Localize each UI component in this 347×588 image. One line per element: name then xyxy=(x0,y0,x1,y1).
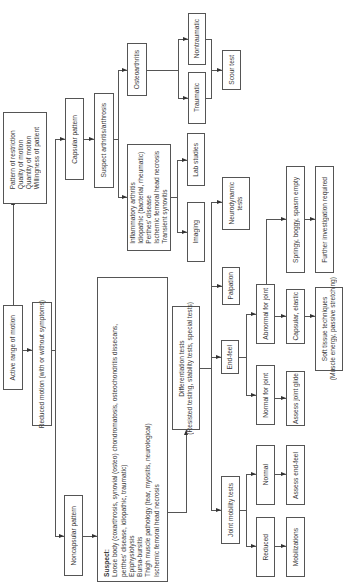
node-capsular-elastic: Capsular, elastic xyxy=(286,289,305,344)
node-label: Suspect arthritis/arthrosis xyxy=(100,103,108,177)
connector xyxy=(200,368,211,369)
node-label: Normal xyxy=(262,464,270,485)
node-label-list: Inflammatory arthritis Idiopathic (bacte… xyxy=(129,151,169,244)
node-label: Assess end-feel xyxy=(292,452,300,499)
node-nontraumatic: Nontraumatic xyxy=(188,13,206,65)
node-label: Noncapsular pattern xyxy=(70,506,78,565)
node-label-list: Differentiation tests (Resisted testing,… xyxy=(178,302,194,435)
node-differentiation-tests: Differentiation tests (Resisted testing,… xyxy=(172,306,200,430)
node-imaging: Imaging xyxy=(187,202,205,262)
node-joint-mobility-tests: Joint mobility tests xyxy=(221,476,240,544)
node-suspect-arthritis: Suspect arthritis/arthrosis xyxy=(94,93,114,188)
node-label: Palpation xyxy=(227,272,235,300)
node-label: Capsular pattern xyxy=(71,115,79,164)
node-reduced-motion: Reduced motion (with or without symptoms… xyxy=(32,302,52,426)
connector xyxy=(147,70,179,71)
node-label-list: Neurodynamic tests xyxy=(228,182,244,225)
node-label: Reduced xyxy=(262,534,270,560)
node-lab-studies: Lab studies xyxy=(187,133,205,186)
node-assess-joint-glide: Assess joint glide xyxy=(286,371,305,426)
connector xyxy=(177,160,178,233)
connector xyxy=(211,39,212,99)
node-label: Scour test xyxy=(228,55,236,85)
connector xyxy=(246,474,247,547)
connector xyxy=(186,430,187,513)
connector xyxy=(13,204,14,305)
node-suspect-conditions: Suspect: Loose body (coxarthrosis, synov… xyxy=(97,277,168,582)
node-label: Lab studies xyxy=(192,143,200,177)
node-palpation: Palpation xyxy=(222,267,240,305)
node-label: Abnormal for joint xyxy=(262,288,270,340)
connector xyxy=(178,39,179,99)
node-label-list: Pattern of restriction Quality of motion… xyxy=(9,127,41,189)
node-label: Assess joint glide xyxy=(292,373,300,424)
node-normal: Normal xyxy=(256,445,275,505)
connector xyxy=(168,512,186,513)
node-label: Active range of motion xyxy=(9,315,17,381)
node-label: Imaging xyxy=(192,220,200,243)
node-label-list: Suspect: Loose body (coxarthrosis, synov… xyxy=(103,324,161,577)
node-osteoarthritis: Osteoarthritis xyxy=(127,43,147,96)
node-active-range-of-motion: Active range of motion xyxy=(3,305,23,390)
node-label-list: Soft tissue techniques (Muscle energy, p… xyxy=(321,277,337,380)
connector xyxy=(118,70,119,198)
node-inflammatory-conditions: Inflammatory arthritis Idiopathic (bacte… xyxy=(127,144,171,251)
connector xyxy=(211,202,212,510)
node-abnormal-for-joint: Abnormal for joint xyxy=(256,284,275,344)
connector xyxy=(266,219,267,284)
node-label: Reduced motion (with or without symptoms… xyxy=(38,300,46,428)
node-assess-end-feel: Assess end-feel xyxy=(286,445,305,505)
node-further-investigation: Further investigation required xyxy=(315,166,334,273)
node-label: Further investigation required xyxy=(321,177,329,263)
connector xyxy=(239,357,246,358)
node-label: End-feel xyxy=(226,345,234,370)
node-neurodynamic-tests: Neurodynamic tests xyxy=(222,177,250,230)
connector xyxy=(246,314,247,396)
node-springy-boggy: Springy, boggy, spasm empty xyxy=(286,166,305,273)
node-assessment-factors: Pattern of restriction Quality of motion… xyxy=(3,112,47,204)
node-soft-tissue-techniques: Soft tissue techniques (Muscle energy, p… xyxy=(315,287,343,371)
node-label: Mobilizations xyxy=(292,528,300,566)
node-capsular-pattern: Capsular pattern xyxy=(65,98,84,180)
node-label: Springy, boggy, spasm empty xyxy=(292,177,300,263)
node-label: Capsular, elastic xyxy=(292,292,300,340)
node-mobilizations: Mobilizations xyxy=(286,517,305,577)
node-label: Osteoarthritis xyxy=(133,50,141,89)
node-label: Traumatic xyxy=(193,83,201,112)
node-reduced: Reduced xyxy=(256,517,275,577)
node-traumatic: Traumatic xyxy=(188,72,206,124)
node-normal-for-joint: Normal for joint xyxy=(256,365,275,425)
hip-examination-flowchart: Active range of motion Pattern of restri… xyxy=(0,0,347,588)
connector xyxy=(55,139,56,536)
node-noncapsular-pattern: Noncapsular pattern xyxy=(64,495,83,576)
node-end-feel: End-feel xyxy=(221,340,239,374)
node-label: Joint mobility tests xyxy=(227,483,235,537)
node-label: Nontraumatic xyxy=(193,19,201,58)
node-scour-test: Scour test xyxy=(222,50,241,90)
node-label: Normal for joint xyxy=(262,373,270,418)
